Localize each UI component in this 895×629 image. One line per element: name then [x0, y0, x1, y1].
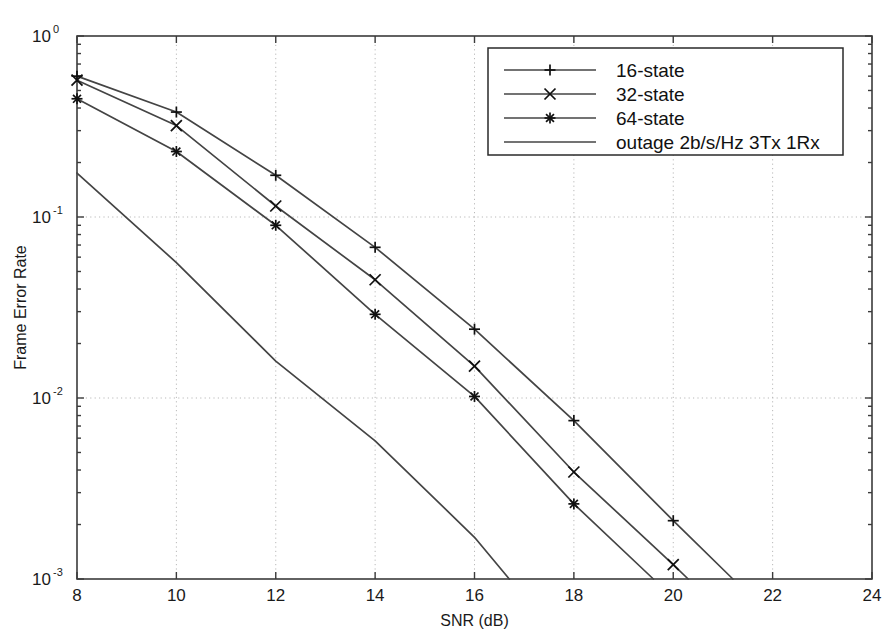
x-tick-label: 22 — [763, 586, 782, 605]
x-axis-title: SNR (dB) — [440, 612, 508, 629]
x-tick-label: 8 — [72, 586, 81, 605]
legend-label: outage 2b/s/Hz 3Tx 1Rx — [616, 132, 820, 153]
legend-label: 32-state — [616, 84, 685, 105]
legend-label: 64-state — [616, 108, 685, 129]
x-tick-label: 10 — [167, 586, 186, 605]
x-tick-label: 12 — [266, 586, 285, 605]
series-64-state — [72, 93, 654, 579]
x-tick-label: 16 — [465, 586, 484, 605]
figure-container: 8101214161820222410010-110-210-3 SNR (dB… — [0, 0, 895, 629]
x-tick-label: 24 — [863, 586, 882, 605]
legend-layer[interactable]: 16-state32-state64-stateoutage 2b/s/Hz 3… — [488, 48, 843, 155]
legend-label: 16-state — [616, 60, 685, 81]
y-tick-label: 10-1 — [32, 204, 63, 227]
series-line — [77, 173, 509, 579]
y-tick-label-exponent: -1 — [53, 204, 63, 216]
y-tick-label: 10-2 — [32, 385, 63, 408]
chart-canvas: 8101214161820222410010-110-210-3 SNR (dB… — [0, 0, 895, 629]
series-outage-2b-s-hz-3tx-1rx — [77, 173, 509, 579]
series-line — [77, 99, 653, 579]
y-tick-label-exponent: -3 — [53, 566, 63, 578]
y-tick-label-base: 10 — [32, 570, 51, 589]
x-tick-label: 20 — [664, 586, 683, 605]
axis-title-layer: SNR (dB)Frame Error Rate — [12, 245, 509, 629]
y-axis-title: Frame Error Rate — [12, 245, 29, 370]
x-tick-label: 18 — [564, 586, 583, 605]
y-tick-label-base: 10 — [32, 27, 51, 46]
y-tick-label: 10-3 — [32, 566, 63, 589]
y-tick-label-exponent: -2 — [53, 385, 63, 397]
y-tick-label-base: 10 — [32, 389, 51, 408]
y-tick-label-exponent: 0 — [53, 23, 59, 35]
x-tick-label: 14 — [366, 586, 385, 605]
y-tick-label: 100 — [32, 23, 59, 46]
y-tick-label-base: 10 — [32, 208, 51, 227]
